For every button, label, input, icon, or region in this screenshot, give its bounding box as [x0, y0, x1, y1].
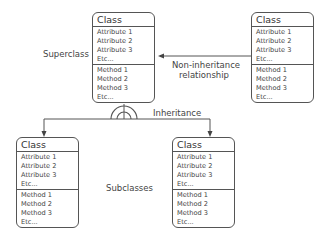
methods-section: Method 1 Method 2 Method 3 Etc... — [252, 65, 313, 102]
subclasses-label: Subclasses — [106, 183, 153, 193]
attribute: Etc... — [256, 55, 313, 64]
method: Method 2 — [21, 200, 78, 209]
method: Method 3 — [97, 84, 154, 93]
attribute: Attribute 2 — [256, 37, 313, 46]
method: Etc... — [21, 218, 78, 227]
superclass-label: Superclass — [43, 49, 89, 59]
non-inheritance-label-line2: relationship — [172, 70, 236, 80]
inheritance-label: Inheritance — [153, 108, 201, 118]
method: Method 1 — [256, 66, 313, 75]
attribute: Attribute 2 — [97, 37, 154, 46]
methods-section: Method 1 Method 2 Method 3 Etc... — [17, 190, 78, 227]
non-inheritance-label: Non-inheritance relationship — [172, 60, 236, 80]
class-title: Class — [252, 13, 313, 27]
attribute: Attribute 3 — [177, 171, 234, 180]
attribute: Etc... — [97, 55, 154, 64]
class-title: Class — [17, 138, 78, 152]
attribute: Attribute 2 — [21, 162, 78, 171]
attribute: Attribute 1 — [177, 153, 234, 162]
class-title: Class — [93, 13, 154, 27]
attribute: Attribute 2 — [177, 162, 234, 171]
attribute: Attribute 3 — [97, 46, 154, 55]
methods-section: Method 1 Method 2 Method 3 Etc... — [93, 65, 154, 102]
class-box-subclass-right[interactable]: Class Attribute 1 Attribute 2 Attribute … — [172, 137, 235, 228]
method: Method 2 — [177, 200, 234, 209]
method: Etc... — [256, 93, 313, 102]
attribute: Etc... — [177, 180, 234, 189]
attributes-section: Attribute 1 Attribute 2 Attribute 3 Etc.… — [17, 152, 78, 190]
class-box-related[interactable]: Class Attribute 1 Attribute 2 Attribute … — [251, 12, 314, 103]
attributes-section: Attribute 1 Attribute 2 Attribute 3 Etc.… — [173, 152, 234, 190]
attribute: Attribute 1 — [21, 153, 78, 162]
non-inheritance-label-line1: Non-inheritance — [172, 60, 236, 70]
methods-section: Method 1 Method 2 Method 3 Etc... — [173, 190, 234, 227]
attributes-section: Attribute 1 Attribute 2 Attribute 3 Etc.… — [93, 27, 154, 65]
attributes-section: Attribute 1 Attribute 2 Attribute 3 Etc.… — [252, 27, 313, 65]
class-title: Class — [173, 138, 234, 152]
attribute: Attribute 1 — [256, 28, 313, 37]
method: Method 3 — [256, 84, 313, 93]
method: Method 2 — [97, 75, 154, 84]
method: Method 1 — [21, 191, 78, 200]
method: Etc... — [97, 93, 154, 102]
method: Etc... — [177, 218, 234, 227]
attribute: Attribute 3 — [256, 46, 313, 55]
class-box-subclass-left[interactable]: Class Attribute 1 Attribute 2 Attribute … — [16, 137, 79, 228]
class-box-superclass[interactable]: Class Attribute 1 Attribute 2 Attribute … — [92, 12, 155, 103]
attribute: Attribute 1 — [97, 28, 154, 37]
method: Method 1 — [177, 191, 234, 200]
attribute: Attribute 3 — [21, 171, 78, 180]
arrowhead-icon — [158, 54, 164, 59]
method: Method 3 — [21, 209, 78, 218]
attribute: Etc... — [21, 180, 78, 189]
method: Method 1 — [97, 66, 154, 75]
method: Method 2 — [256, 75, 313, 84]
method: Method 3 — [177, 209, 234, 218]
